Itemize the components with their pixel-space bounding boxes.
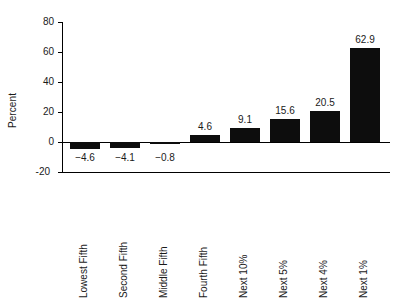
y-tick-label-0: 0 [28, 137, 54, 147]
bar-chart: Percent 80 60 40 20 0 -20 −4.6 −4.1 −0.8… [0, 0, 406, 300]
y-tick-label-60: 60 [28, 47, 54, 57]
x-category-label-lowest-fifth: Lowest Fifth [79, 244, 89, 298]
value-label-middle-fifth: −0.8 [140, 153, 190, 163]
bar-next-1-percent [350, 48, 380, 142]
x-category-label-fourth-fifth: Fourth Fifth [199, 247, 209, 298]
y-axis-line [62, 22, 63, 173]
y-tick-label-40: 40 [28, 77, 54, 87]
bar-next-10-percent [230, 128, 260, 142]
bar-next-5-percent [270, 119, 300, 142]
y-tick-label-neg20: -20 [24, 167, 50, 177]
y-tick-label-20: 20 [28, 107, 54, 117]
x-category-label-next-5-percent: Next 5% [279, 260, 289, 298]
y-axis-label: Percent [7, 66, 18, 156]
bar-middle-fifth [150, 142, 180, 144]
x-category-label-middle-fifth: Middle Fifth [159, 246, 169, 298]
bar-lowest-fifth [70, 142, 100, 149]
bar-second-fifth [110, 142, 140, 148]
value-label-next-10-percent: 9.1 [220, 115, 270, 125]
y-tick-label-80: 80 [28, 17, 54, 27]
value-label-next-1-percent: 62.9 [340, 35, 390, 45]
bar-next-4-percent [310, 111, 340, 142]
x-category-label-second-fifth: Second Fifth [119, 242, 129, 298]
x-category-label-next-10-percent: Next 10% [239, 255, 249, 298]
bar-fourth-fifth [190, 135, 220, 142]
x-category-label-next-1-percent: Next 1% [359, 260, 369, 298]
x-axis-line [62, 172, 390, 173]
x-category-label-next-4-percent: Next 4% [319, 260, 329, 298]
value-label-next-4-percent: 20.5 [300, 98, 350, 108]
